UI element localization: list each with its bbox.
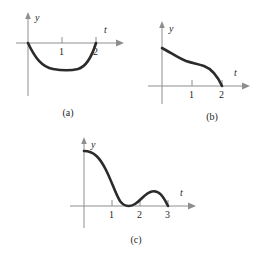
x-tick-label-b-2: 2 — [219, 89, 224, 100]
panel-caption-b: (b) — [182, 111, 242, 122]
panel-caption-c: (c) — [106, 234, 166, 245]
x-tick-label-c-2: 2 — [137, 209, 142, 220]
x-axis-label-c: t — [180, 187, 183, 198]
x-axis-b — [148, 83, 250, 90]
graph-panel-c: y t 1 2 3 — [62, 132, 212, 232]
y-axis-label-a: y — [34, 12, 40, 23]
x-tick-label-c-3: 3 — [165, 209, 170, 220]
x-tick-label-b-1: 1 — [189, 89, 194, 100]
x-axis-label-b: t — [234, 67, 237, 78]
y-axis-label-b: y — [168, 23, 174, 34]
graph-panel-b: y t 1 2 — [140, 16, 262, 106]
y-axis-b — [159, 21, 165, 104]
y-axis-label-c: y — [90, 139, 96, 150]
figure-container: y t 1 2 (a) — [0, 0, 268, 257]
x-tick-marks-b — [192, 80, 222, 86]
x-tick-marks-a — [62, 37, 96, 43]
x-axis-a — [16, 40, 124, 47]
y-axis-a — [25, 12, 31, 96]
panel-caption-a: (a) — [38, 107, 98, 118]
curve-c — [84, 151, 168, 206]
x-tick-label-c-1: 1 — [109, 209, 114, 220]
x-axis-label-a: t — [104, 24, 107, 35]
graph-panel-a: y t 1 2 — [8, 10, 133, 100]
x-tick-label-a-1: 1 — [59, 46, 64, 57]
